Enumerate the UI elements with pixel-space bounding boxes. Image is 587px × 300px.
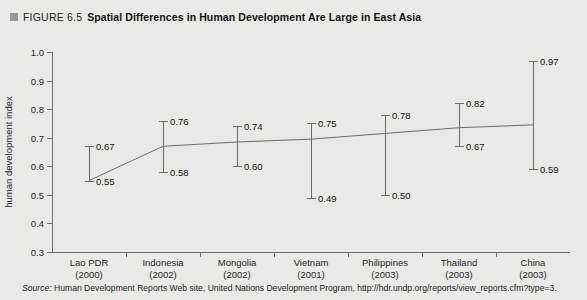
x-axis-line: [52, 252, 570, 253]
source-note: Source: Human Development Reports Web si…: [22, 283, 557, 293]
x-axis-separator: [274, 252, 275, 257]
x-axis-separator: [496, 252, 497, 257]
x-label-year: (2003): [519, 269, 546, 281]
y-tick-label: 0.8: [31, 104, 44, 115]
y-tick-label: 0.5: [31, 189, 44, 200]
x-label-country: China: [519, 257, 546, 269]
figure-title: Spatial Differences in Human Development…: [87, 11, 421, 23]
x-axis-separator: [126, 252, 127, 257]
y-tick: [47, 252, 52, 253]
x-axis-label: Thailand(2003): [441, 257, 477, 280]
x-axis-label: Vietnam(2001): [294, 257, 329, 280]
square-bullet-icon: [10, 13, 18, 21]
x-axis-separator: [422, 252, 423, 257]
x-axis-label: Philippines(2003): [362, 257, 408, 280]
y-tick-label: 0.9: [31, 75, 44, 86]
figure-header: FIGURE 6.5 Spatial Differences in Human …: [10, 11, 421, 23]
x-label-year: (2002): [218, 269, 257, 281]
x-axis-label: Lao PDR(2000): [70, 257, 109, 280]
y-axis-title: human development index: [3, 96, 14, 207]
plot-area: human development index 1.00.90.80.70.60…: [52, 52, 570, 252]
x-label-year: (2003): [362, 269, 408, 281]
figure-container: FIGURE 6.5 Spatial Differences in Human …: [0, 0, 587, 300]
x-label-country: Philippines: [362, 257, 408, 269]
y-tick-label: 1.0: [31, 47, 44, 58]
source-text: Human Development Reports Web site, Unit…: [54, 283, 557, 293]
x-label-year: (2000): [70, 269, 109, 281]
connecting-line: [52, 52, 570, 252]
x-label-country: Lao PDR: [70, 257, 109, 269]
x-label-country: Indonesia: [142, 257, 183, 269]
x-label-year: (2002): [142, 269, 183, 281]
y-tick-label: 0.7: [31, 132, 44, 143]
x-axis-separator: [348, 252, 349, 257]
figure-number: FIGURE 6.5: [23, 11, 82, 23]
x-label-country: Vietnam: [294, 257, 329, 269]
x-label-year: (2003): [441, 269, 477, 281]
source-label: Source:: [22, 283, 52, 293]
y-tick-label: 0.4: [31, 218, 44, 229]
x-axis-label: Mongolia(2002): [218, 257, 257, 280]
x-axis-separator: [200, 252, 201, 257]
y-tick-label: 0.6: [31, 161, 44, 172]
x-label-country: Mongolia: [218, 257, 257, 269]
x-label-year: (2001): [294, 269, 329, 281]
x-axis-label: China(2003): [519, 257, 546, 280]
y-tick-label: 0.3: [31, 247, 44, 258]
x-axis-label: Indonesia(2002): [142, 257, 183, 280]
x-label-country: Thailand: [441, 257, 477, 269]
